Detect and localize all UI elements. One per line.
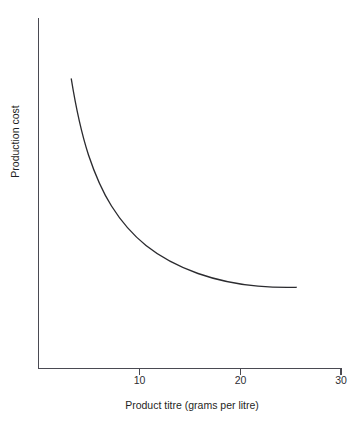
plot-area	[0, 0, 364, 425]
x-tick-label-30: 30	[324, 374, 358, 386]
y-axis-label: Production cost	[9, 82, 22, 202]
x-axis-label: Product titre (grams per litre)	[72, 399, 312, 412]
production-cost-chart: 10 20 30 Product titre (grams per litre)…	[0, 0, 364, 425]
x-tick-label-20: 20	[224, 374, 258, 386]
production-cost-curve	[71, 79, 296, 287]
x-tick-label-10: 10	[123, 374, 157, 386]
